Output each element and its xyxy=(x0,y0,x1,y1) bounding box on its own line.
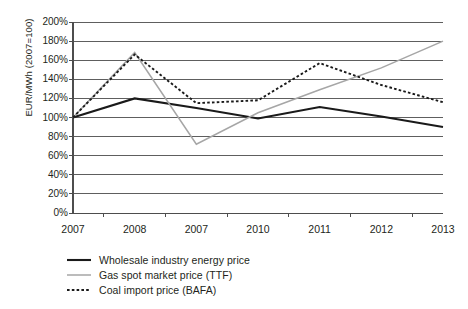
legend-swatch-icon xyxy=(66,269,92,281)
x-axis-tick-label: 2010 xyxy=(228,223,288,235)
legend-swatch-icon xyxy=(66,254,92,266)
chart-legend: Wholesale industry energy priceGas spot … xyxy=(66,252,366,297)
x-axis-tick-label: 2012 xyxy=(351,223,411,235)
legend-label: Coal import price (BAFA) xyxy=(99,284,216,296)
x-axis-tick-label: 2011 xyxy=(290,223,350,235)
legend-label: Gas spot market price (TTF) xyxy=(99,269,232,281)
chart-figure: EUR/MWh (2007=100) 0%20%40%60%80%100%120… xyxy=(0,0,468,309)
series-line xyxy=(73,41,443,144)
x-axis-tick-label: 2008 xyxy=(105,223,165,235)
series-line xyxy=(73,54,443,117)
legend-swatch-icon xyxy=(66,284,92,296)
legend-item: Wholesale industry energy price xyxy=(66,252,366,267)
x-axis-tick-label: 2007 xyxy=(166,223,226,235)
legend-label: Wholesale industry energy price xyxy=(99,254,250,266)
x-axis-tick-label: 2013 xyxy=(413,223,468,235)
x-axis-tick-label: 2007 xyxy=(43,223,103,235)
legend-item: Coal import price (BAFA) xyxy=(66,282,366,297)
legend-item: Gas spot market price (TTF) xyxy=(66,267,366,282)
